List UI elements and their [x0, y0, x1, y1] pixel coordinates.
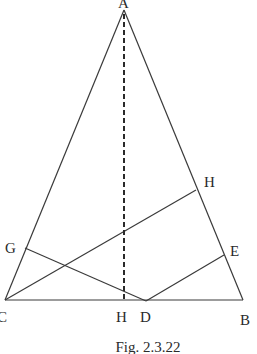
triangle-diagram: A H G E C H D B Fig. 2.3.22 [0, 0, 257, 354]
segment-de [146, 255, 224, 301]
label-d: D [140, 309, 151, 325]
segment-ch [5, 190, 196, 300]
label-a: A [118, 0, 129, 11]
label-c: C [0, 309, 7, 325]
figure-caption: Fig. 2.3.22 [115, 339, 180, 354]
label-b: B [240, 312, 250, 328]
label-e: E [230, 243, 239, 259]
label-h-on-ab: H [204, 174, 215, 190]
label-h-foot: H [116, 309, 127, 325]
label-g: G [5, 240, 16, 256]
segment-ab [124, 10, 243, 300]
segment-gd [25, 248, 146, 301]
segment-ac [5, 10, 124, 300]
